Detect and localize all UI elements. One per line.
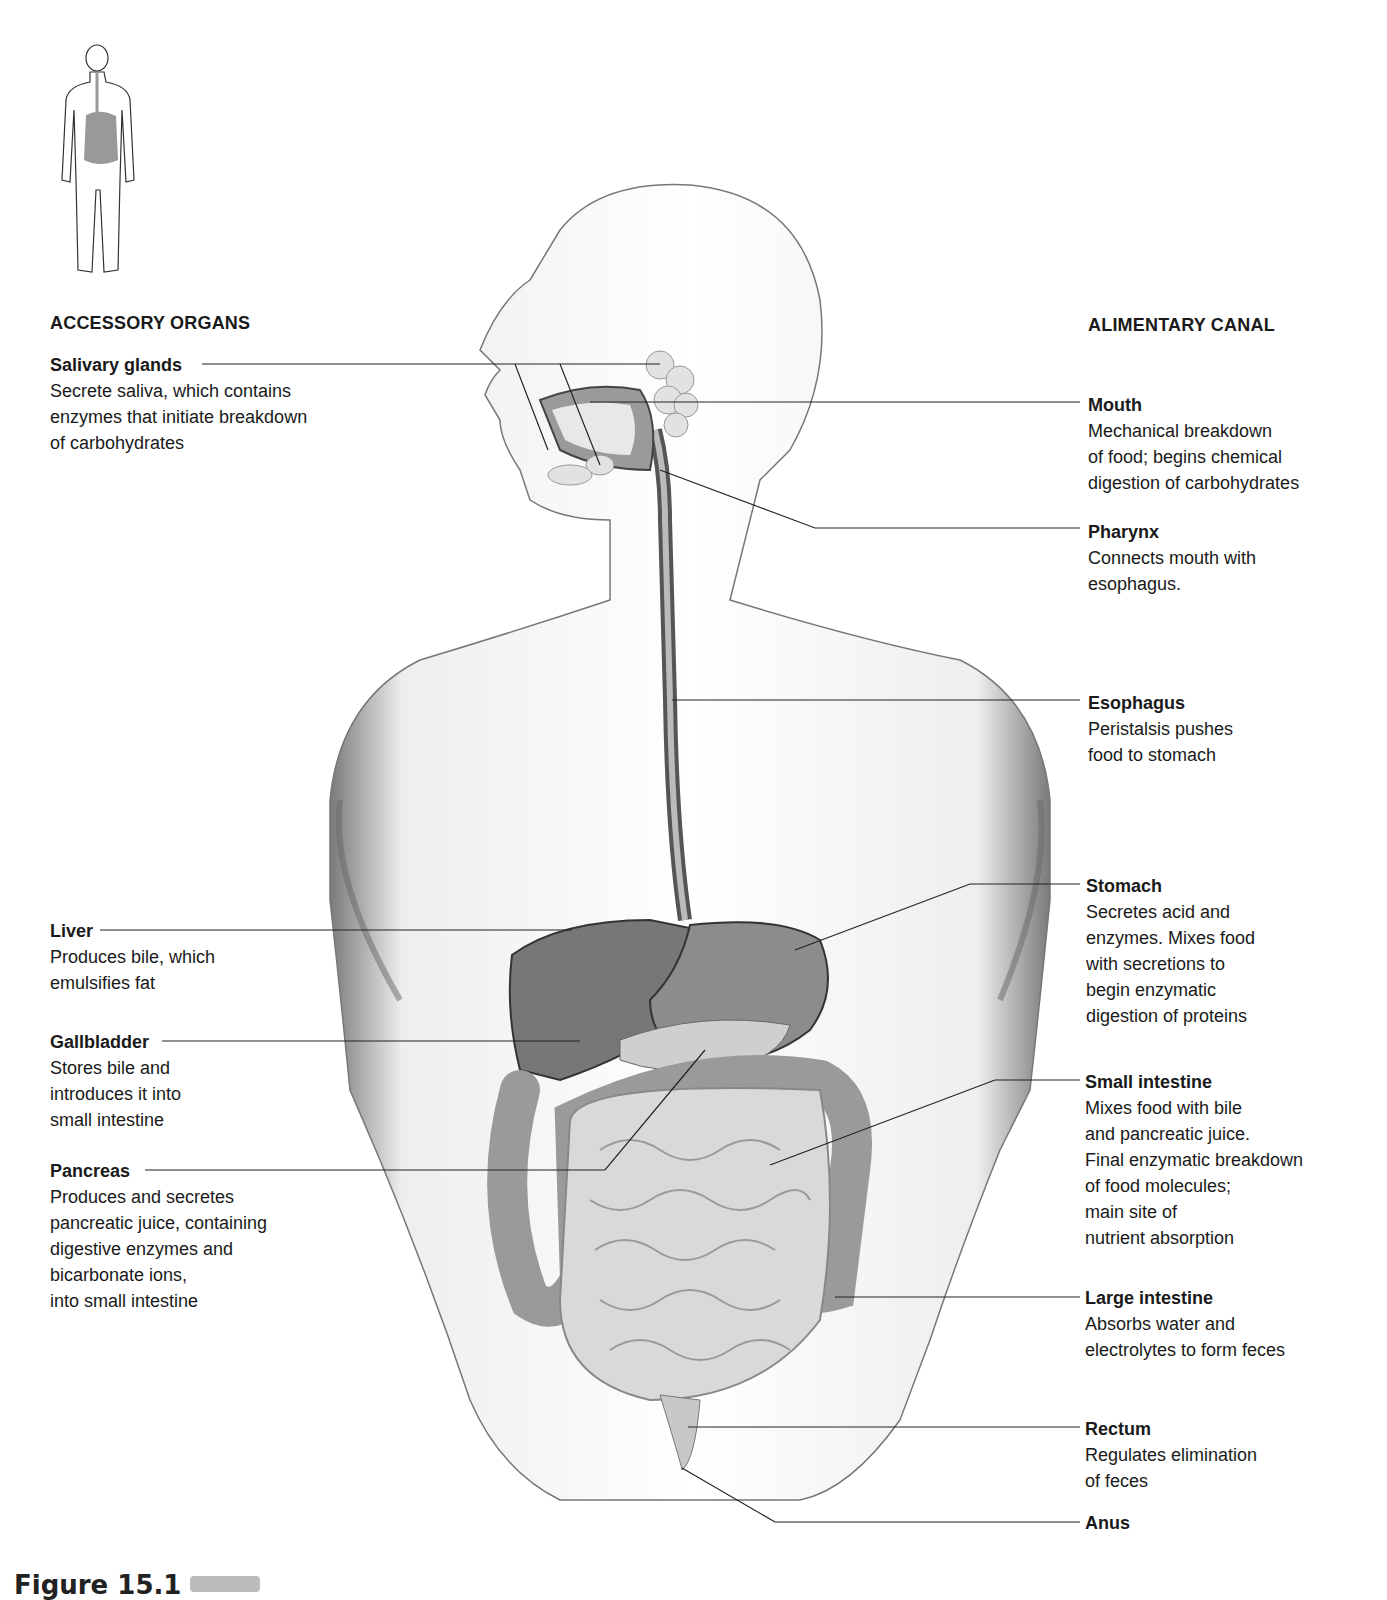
figure-caption: Figure 15.1 [14,1570,181,1600]
label-gallbladder: Gallbladder Stores bile and introduces i… [50,1029,181,1133]
alimentary-canal-heading: ALIMENTARY CANAL [1088,315,1275,336]
organ-name: Pharynx [1088,519,1256,545]
organ-description: Mechanical breakdown of food; begins che… [1088,418,1299,496]
organ-name: Mouth [1088,392,1299,418]
organ-name: Salivary glands [50,352,307,378]
organ-name: Gallbladder [50,1029,181,1055]
label-large-intestine: Large intestine Absorbs water and electr… [1085,1285,1285,1363]
organ-description: Peristalsis pushes food to stomach [1088,716,1233,768]
organ-description: Absorbs water and electrolytes to form f… [1085,1311,1285,1363]
label-pancreas: Pancreas Produces and secretes pancreati… [50,1158,267,1314]
organ-description: Stores bile and introduces it into small… [50,1055,181,1133]
organ-description: Secrete saliva, which contains enzymes t… [50,378,307,456]
organ-name: Small intestine [1085,1069,1303,1095]
organ-description: Produces and secretes pancreatic juice, … [50,1184,267,1314]
organ-description: Secretes acid and enzymes. Mixes food wi… [1086,899,1255,1029]
organ-name: Esophagus [1088,690,1233,716]
organ-name: Stomach [1086,873,1255,899]
organ-description: Regulates elimination of feces [1085,1442,1257,1494]
organ-name: Pancreas [50,1158,267,1184]
label-mouth: Mouth Mechanical breakdown of food; begi… [1088,392,1299,496]
organ-name: Anus [1085,1510,1130,1536]
label-anus: Anus [1085,1510,1130,1536]
label-stomach: Stomach Secretes acid and enzymes. Mixes… [1086,873,1255,1029]
accessory-organs-heading: ACCESSORY ORGANS [50,313,250,334]
organ-name: Large intestine [1085,1285,1285,1311]
label-small-intestine: Small intestine Mixes food with bile and… [1085,1069,1303,1251]
figure-badge [190,1576,260,1592]
organ-name: Rectum [1085,1416,1257,1442]
label-pharynx: Pharynx Connects mouth with esophagus. [1088,519,1256,597]
organ-description: Connects mouth with esophagus. [1088,545,1256,597]
organ-description: Mixes food with bile and pancreatic juic… [1085,1095,1303,1251]
thumbnail-body-icon [62,45,134,272]
label-salivary-glands: Salivary glands Secrete saliva, which co… [50,352,307,456]
label-esophagus: Esophagus Peristalsis pushes food to sto… [1088,690,1233,768]
organ-description: Produces bile, which emulsifies fat [50,944,215,996]
label-liver: Liver Produces bile, which emulsifies fa… [50,918,215,996]
organ-name: Liver [50,918,215,944]
label-rectum: Rectum Regulates elimination of feces [1085,1416,1257,1494]
